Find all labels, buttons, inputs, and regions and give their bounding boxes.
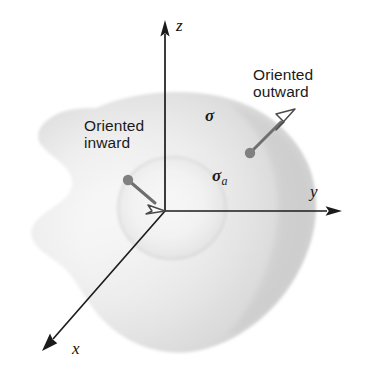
- oriented-inward-line1: Oriented: [84, 117, 144, 134]
- sigma-a-glyph: σ: [212, 166, 221, 185]
- axis-label-x-text: x: [72, 339, 80, 358]
- sigma-glyph: σ: [205, 106, 214, 125]
- label-oriented-outward: Orientedoutward: [253, 66, 313, 101]
- hole-region: [118, 157, 226, 259]
- oriented-inward-line2: inward: [84, 134, 130, 151]
- oriented-outward-line2: outward: [253, 83, 309, 100]
- axis-label-y-text: y: [310, 182, 318, 201]
- axis-label-z: z: [176, 16, 183, 35]
- axis-label-y: y: [310, 182, 318, 201]
- axis-label-x: x: [72, 339, 80, 358]
- label-sigma-surface: σ: [205, 106, 214, 125]
- label-oriented-inward: Orientedinward: [84, 117, 144, 152]
- label-sigma-a-hole: σa: [212, 166, 228, 188]
- figure-canvas: Orientedoutward Orientedinward σ σa z y …: [0, 0, 368, 375]
- sigma-a-subscript: a: [222, 174, 228, 188]
- axis-label-z-text: z: [176, 16, 183, 35]
- oriented-outward-line1: Oriented: [253, 66, 313, 83]
